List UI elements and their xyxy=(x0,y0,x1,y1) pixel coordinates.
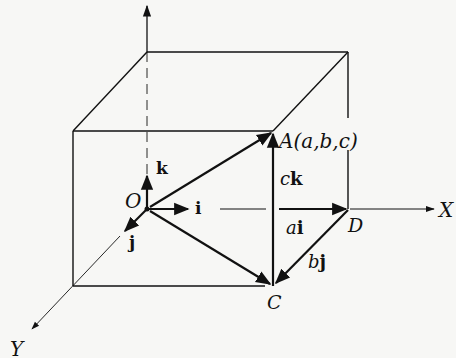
bj-coefficient: b xyxy=(308,251,320,272)
bj-unit-vector: j xyxy=(320,251,327,272)
label-bj: bj xyxy=(308,253,326,271)
ai-unit-vector: i xyxy=(297,217,304,238)
label-origin: O xyxy=(125,191,141,211)
label-point-c: C xyxy=(267,293,282,312)
ck-unit-vector: k xyxy=(290,168,302,189)
label-ck: ck xyxy=(280,170,303,188)
ck-coefficient: c xyxy=(280,168,290,189)
label-point-d: D xyxy=(348,216,363,235)
label-unit-j: j xyxy=(129,234,135,251)
label-ai: ai xyxy=(286,219,304,237)
vector-box-diagram: O A(a,b,c) C D X Y k i j ck ai bj xyxy=(0,0,456,358)
label-unit-i: i xyxy=(195,200,201,217)
origin-point xyxy=(145,207,150,212)
label-unit-k: k xyxy=(156,160,168,177)
label-axis-x: X xyxy=(439,200,453,220)
y-axis xyxy=(32,236,120,329)
ai-coefficient: a xyxy=(286,217,297,238)
diagram-lines xyxy=(0,0,456,358)
label-axis-y: Y xyxy=(10,339,23,358)
label-point-a: A(a,b,c) xyxy=(279,131,358,151)
